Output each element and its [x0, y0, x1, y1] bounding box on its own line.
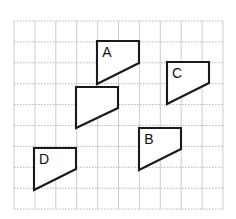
shape-unlabeled: [76, 87, 118, 128]
figure-canvas: ACBD: [0, 0, 236, 219]
shape-a-label: A: [102, 44, 112, 60]
shape-b-label: B: [144, 131, 153, 147]
shape-d-label: D: [39, 151, 49, 167]
shape-c-label: C: [172, 65, 182, 81]
geometry-figure: ACBD: [0, 0, 236, 219]
